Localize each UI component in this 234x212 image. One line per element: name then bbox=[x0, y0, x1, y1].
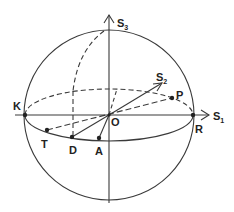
label-p: P bbox=[176, 89, 183, 101]
label-o: O bbox=[111, 116, 120, 128]
point-t bbox=[45, 128, 49, 132]
poincare-sphere-diagram: S3 S2 S1 K R O P T D A bbox=[0, 0, 234, 212]
label-t: T bbox=[41, 138, 48, 150]
meridian-dashed bbox=[73, 31, 104, 91]
point-a bbox=[97, 136, 101, 140]
point-d bbox=[70, 135, 74, 139]
label-a: A bbox=[95, 145, 103, 157]
point-k bbox=[23, 113, 27, 117]
label-r: R bbox=[195, 123, 203, 135]
point-r bbox=[191, 113, 195, 117]
label-d: D bbox=[69, 144, 77, 156]
s3-label: S3 bbox=[117, 17, 128, 31]
label-k: K bbox=[13, 100, 21, 112]
s2-axis bbox=[109, 83, 162, 115]
s1-label: S1 bbox=[213, 110, 224, 124]
point-p bbox=[170, 96, 174, 100]
s2-label: S2 bbox=[156, 71, 167, 85]
